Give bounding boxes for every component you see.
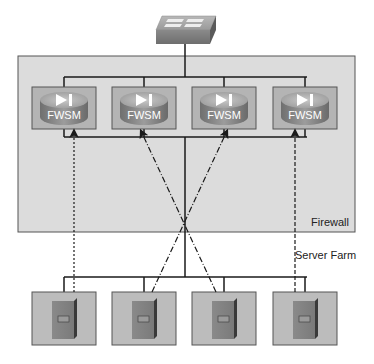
server-node (112, 292, 176, 345)
server-node (273, 292, 337, 345)
fwsm-label: FWSM (288, 109, 322, 121)
server-node (192, 292, 256, 345)
server-node (32, 292, 96, 345)
switch-icon (156, 16, 216, 44)
server-icon (293, 298, 318, 339)
fwsm-module: FWSM (32, 87, 96, 129)
fwsm-module: FWSM (112, 87, 176, 129)
server-icon (212, 298, 237, 339)
server-icon (52, 298, 77, 339)
fwsm-label: FWSM (47, 109, 81, 121)
network-diagram: FWSMFWSMFWSMFWSM Firewall Server Farm (0, 0, 374, 364)
fwsm-label: FWSM (207, 109, 241, 121)
server-icon (132, 298, 157, 339)
fwsm-module: FWSM (192, 87, 256, 129)
fwsm-label: FWSM (127, 109, 161, 121)
firewall-zone-label: Firewall (311, 216, 349, 228)
fwsm-module: FWSM (273, 87, 337, 129)
server-farm-label: Server Farm (295, 249, 356, 261)
